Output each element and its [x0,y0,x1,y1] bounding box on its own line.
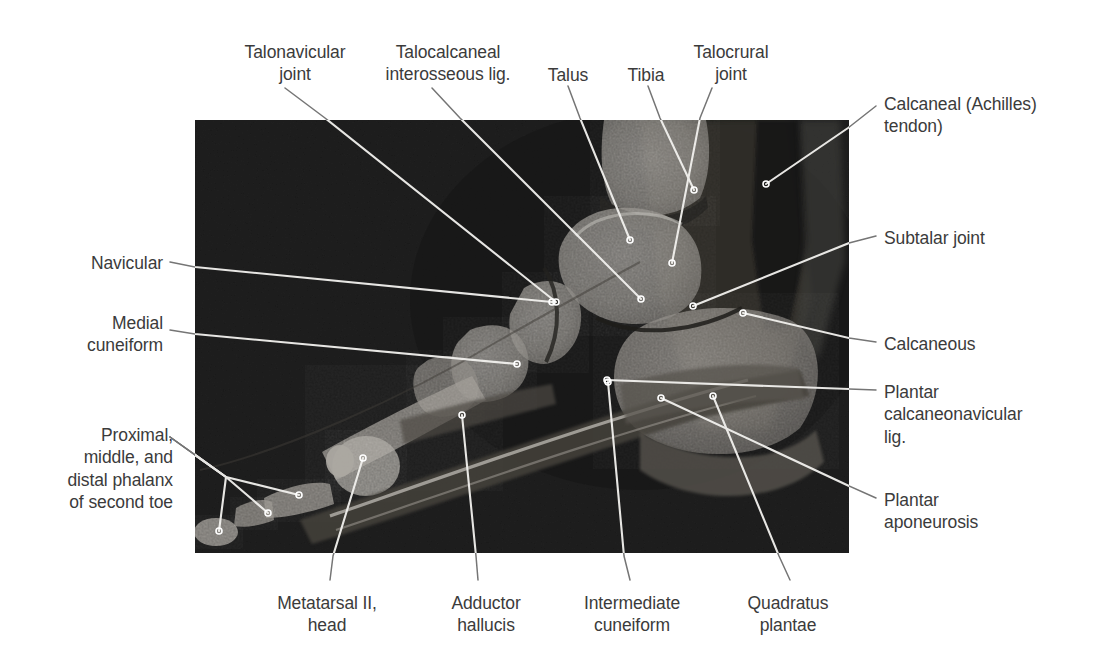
label-calcaneal-achilles-tendon: Calcaneal (Achilles) tendon) [884,93,1094,138]
label-talus: Talus [536,64,600,86]
label-talonavicular-joint: Talonavicular joint [225,41,365,86]
label-phalanges-second-toe: Proximal, middle, and distal phalanx of … [20,424,173,514]
anatomical-figure: Talonavicular jointTalocalcaneal interos… [0,0,1095,669]
label-intermediate-cuneiform: Intermediate cuneiform [562,592,702,637]
label-calcaneous: Calcaneous [884,333,1084,355]
label-subtalar-joint: Subtalar joint [884,227,1084,249]
label-metatarsal-ii-head: Metatarsal II, head [256,592,398,637]
mri-scan [194,110,870,553]
label-tibia: Tibia [617,64,675,86]
label-medial-cuneiform: Medial cuneiform [20,312,163,357]
label-adductor-hallucis: Adductor hallucis [430,592,542,637]
label-talocrural-joint: Talocrural joint [676,41,786,86]
label-plantar-calcaneonavicular-lig: Plantar calcaneonavicular lig. [884,381,1084,448]
label-talocalcaneal-interosseous-lig: Talocalcaneal interosseous lig. [368,41,528,86]
label-plantar-aponeurosis: Plantar aponeurosis [884,489,1084,534]
label-navicular: Navicular [20,252,163,274]
label-quadratus-plantae: Quadratus plantae [728,592,848,637]
